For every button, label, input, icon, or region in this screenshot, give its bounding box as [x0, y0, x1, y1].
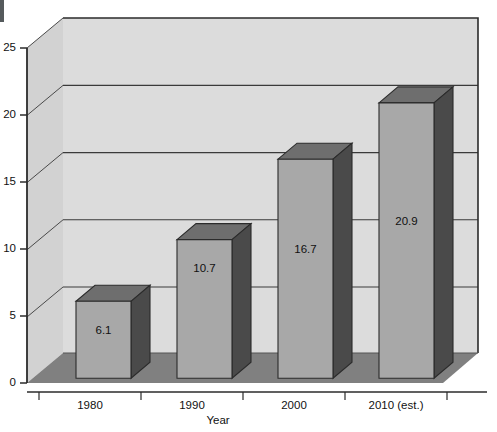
- bar-side-face: [333, 143, 352, 378]
- y-tick-label-15: 15: [0, 175, 16, 187]
- y-tick-label-10: 10: [0, 242, 16, 254]
- bar-value-2010: 20.9: [379, 215, 434, 227]
- x-tick-label-2000: 2000: [254, 399, 334, 411]
- bar-2000: [278, 143, 352, 378]
- y-tick-label-20: 20: [0, 108, 16, 120]
- bar-side-face: [232, 224, 251, 379]
- bar-front-face: [177, 240, 232, 379]
- x-tick-label-2010: 2010 (est.): [356, 399, 436, 411]
- x-tick-label-1990: 1990: [152, 399, 232, 411]
- bar-side-face: [131, 285, 150, 378]
- chart-canvas: 0 5 10 15 20 25 1980 1990 2000 2010 (est…: [0, 0, 497, 432]
- x-axis-title: Year: [178, 414, 258, 426]
- bar-1990: [177, 224, 251, 379]
- y-tick-label-25: 25: [0, 41, 16, 53]
- bar-front-face: [76, 301, 131, 378]
- y-tick-label-5: 5: [0, 309, 16, 321]
- x-tick-label-1980: 1980: [50, 399, 130, 411]
- bar-side-face: [434, 87, 453, 378]
- bar-front-face: [379, 103, 434, 378]
- bar-value-1990: 10.7: [177, 262, 232, 274]
- bar-2010: [379, 87, 453, 378]
- bar-value-1980: 6.1: [76, 324, 131, 336]
- chart-left-wall: [27, 18, 63, 383]
- bar-front-face: [278, 159, 333, 378]
- bar-value-2000: 16.7: [278, 243, 333, 255]
- y-tick-label-0: 0: [0, 376, 16, 388]
- y-axis-ticks: [20, 48, 27, 383]
